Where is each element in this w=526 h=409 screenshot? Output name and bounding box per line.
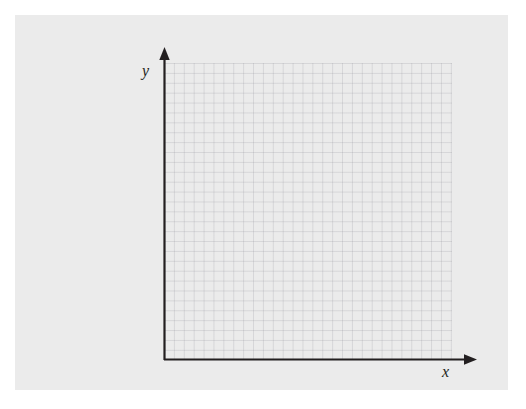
x-axis-label: x	[442, 364, 449, 380]
x-axis-arrowhead	[464, 354, 477, 364]
y-axis-arrowhead	[159, 47, 169, 60]
axes-svg	[15, 15, 526, 409]
y-axis-label: y	[142, 63, 149, 79]
figure-root: y x	[0, 0, 526, 409]
figure-card: y x	[15, 15, 508, 390]
